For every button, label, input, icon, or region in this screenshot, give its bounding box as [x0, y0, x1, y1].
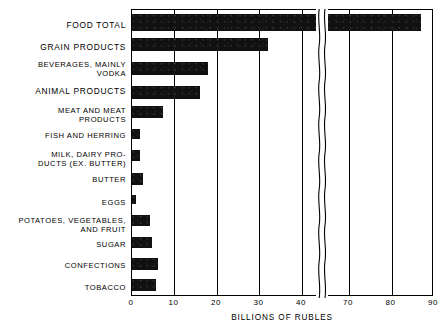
category-label-sugar: SUGAR	[96, 240, 126, 249]
xtick-90: 90	[428, 298, 438, 307]
category-label-beverages: BEVERAGES, MAINLY VODKA	[38, 60, 126, 78]
bars-layer	[132, 10, 432, 295]
xtick-80: 80	[386, 298, 396, 307]
bar-tobacco	[132, 279, 156, 291]
category-label-eggs: EGGS	[102, 198, 126, 207]
category-label-potatoes: POTATOES, VEGETABLES, AND FRUIT	[18, 216, 126, 234]
bar-eggs	[132, 195, 136, 204]
bar-grain-products	[132, 38, 268, 51]
category-label-food-total: FOOD TOTAL	[66, 20, 126, 30]
xtick-40: 40	[296, 298, 306, 307]
category-label-fish: FISH AND HERRING	[45, 131, 126, 140]
bar-food-total	[132, 14, 421, 31]
axis-break-squiggle	[316, 9, 328, 296]
xtick-0: 0	[129, 298, 134, 307]
category-label-animal-products: ANIMAL PRODUCTS	[35, 86, 126, 96]
category-label-confections: CONFECTIONS	[65, 261, 126, 270]
bar-milk-dairy-products-ex-butter	[132, 150, 140, 161]
plot-area	[131, 9, 433, 296]
category-label-tobacco: TOBACCO	[85, 283, 126, 292]
xtick-70: 70	[343, 298, 353, 307]
xtick-20: 20	[211, 298, 221, 307]
x-axis-title: BILLIONS OF RUBLES	[131, 313, 433, 322]
bar-beverages-mainly-vodka	[132, 62, 208, 75]
xtick-10: 10	[169, 298, 179, 307]
category-label-meat: MEAT AND MEAT PRODUCTS	[58, 106, 126, 124]
bar-sugar	[132, 237, 152, 248]
bar-fish-and-herring	[132, 129, 140, 139]
category-label-butter: BUTTER	[92, 175, 126, 184]
bar-potatoes-vegetables-and-fruit	[132, 215, 150, 226]
bar-animal-products	[132, 86, 200, 99]
xtick-30: 30	[253, 298, 263, 307]
bar-butter	[132, 173, 143, 185]
bar-meat-and-meat-products	[132, 106, 163, 118]
bar-confections	[132, 258, 158, 270]
category-label-grain-products: GRAIN PRODUCTS	[40, 42, 126, 52]
category-label-column: FOOD TOTAL GRAIN PRODUCTS BEVERAGES, MAI…	[0, 0, 130, 331]
category-label-milk: MILK, DAIRY PRO- DUCTS (EX. BUTTER)	[38, 150, 126, 168]
